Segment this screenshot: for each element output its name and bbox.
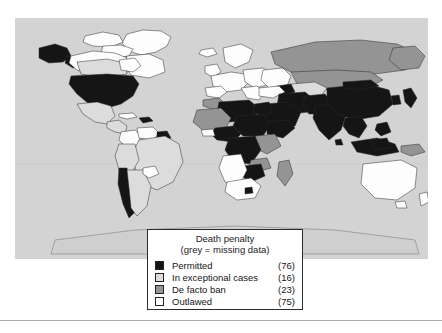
region-new-zealand <box>419 192 428 206</box>
region-australia <box>361 160 417 200</box>
region-korea <box>391 95 401 105</box>
region-sri-lanka <box>335 139 343 145</box>
region-mainland-southeast-asia <box>343 116 367 138</box>
region-mexico <box>77 102 115 124</box>
legend-swatch-outlawed <box>155 297 164 306</box>
legend-row-in-exceptional-cases[interactable]: In exceptional cases (16) <box>155 271 295 283</box>
legend-row-outlawed[interactable]: Outlawed (75) <box>155 295 295 307</box>
page-divider-rule <box>0 320 442 321</box>
region-ghana-coast <box>201 129 215 136</box>
region-iceland <box>199 48 217 57</box>
region-cuba <box>119 113 137 119</box>
region-south-africa <box>225 178 261 200</box>
region-japan <box>403 88 417 108</box>
legend-subtitle: (grey = missing data) <box>148 245 302 256</box>
region-scandinavia <box>223 44 253 68</box>
landmasses <box>39 30 428 254</box>
legend-label-outlawed: Outlawed <box>172 296 269 307</box>
legend-label-permitted: Permitted <box>172 260 269 271</box>
region-lesotho <box>245 187 253 194</box>
legend-swatch-de-facto-ban <box>155 285 164 294</box>
region-papua-new-guinea <box>401 144 425 156</box>
legend-count-permitted: (76) <box>269 260 295 271</box>
region-philippines <box>375 122 391 136</box>
region-caribbean-islands <box>139 117 153 123</box>
legend-swatch-in-exceptional-cases <box>155 273 164 282</box>
legend-row-permitted[interactable]: Permitted (76) <box>155 259 295 271</box>
world-map-svg <box>15 18 428 259</box>
legend-count-de-facto-ban: (23) <box>269 284 295 295</box>
legend-rows: Permitted (76) In exceptional cases (16)… <box>148 259 302 307</box>
region-united-states <box>69 74 139 108</box>
legend-swatch-permitted <box>155 261 164 270</box>
legend-count-in-exceptional-cases: (16) <box>269 272 295 283</box>
legend-heading: Death penalty (grey = missing data) <box>148 234 302 255</box>
map-panel <box>15 18 428 259</box>
legend-row-de-facto-ban[interactable]: De facto ban (23) <box>155 283 295 295</box>
legend-label-in-exceptional-cases: In exceptional cases <box>172 272 269 283</box>
world-map-figure: Death penalty (grey = missing data) Perm… <box>0 0 442 333</box>
region-tasmania <box>395 201 407 208</box>
legend-label-de-facto-ban: De facto ban <box>172 284 269 295</box>
map-legend: Death penalty (grey = missing data) Perm… <box>147 229 303 310</box>
region-canada-arctic-1 <box>83 32 123 47</box>
legend-count-outlawed: (75) <box>269 296 295 307</box>
